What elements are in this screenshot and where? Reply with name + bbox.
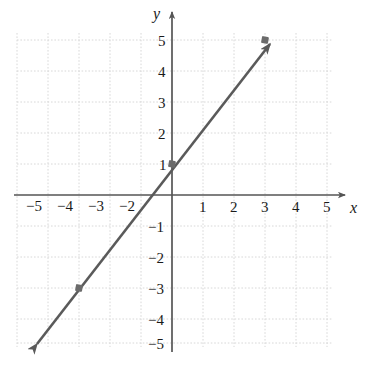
x-tick-label: 1: [199, 200, 207, 215]
x-tick-label: −4: [57, 199, 73, 214]
x-axis-name: x: [350, 200, 357, 216]
x-tick-label: 4: [292, 200, 300, 215]
y-tick-label: 1: [159, 158, 167, 173]
y-tick-label: −3: [148, 282, 164, 297]
data-point-neg3-neg3: [75, 284, 83, 292]
x-tick-label: −3: [88, 199, 104, 214]
y-axis-name: y: [153, 6, 160, 22]
graph-canvas: [0, 0, 370, 367]
y-tick-label: 3: [158, 96, 166, 111]
y-tick-label: −4: [148, 313, 164, 328]
y-tick-label: −2: [148, 251, 164, 266]
x-tick-label: −2: [119, 199, 135, 214]
coordinate-plane-figure: −5 −4 −3 −2 1 2 3 4 5 5 4 3 2 1 −1 −2 −3…: [0, 0, 370, 367]
x-tick-label: 5: [323, 200, 331, 215]
data-point-0-1: [168, 160, 176, 168]
y-tick-label: −1: [148, 220, 164, 235]
data-point-3-5: [261, 36, 269, 44]
grid-lines: [17, 33, 333, 347]
x-tick-label: −5: [26, 199, 42, 214]
x-tick-label: 2: [230, 200, 238, 215]
y-tick-label: 2: [158, 127, 166, 142]
plotted-line: [37, 44, 270, 344]
y-tick-label: 5: [158, 34, 166, 49]
y-tick-label: 4: [158, 65, 166, 80]
x-tick-label: 3: [261, 200, 269, 215]
y-tick-label: −5: [148, 337, 164, 352]
